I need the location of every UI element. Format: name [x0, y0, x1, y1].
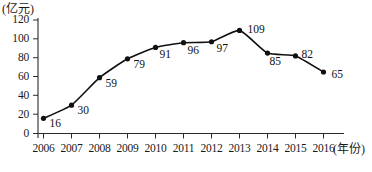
data-point	[97, 75, 102, 80]
data-point-label: 97	[217, 43, 229, 55]
y-axis-tick-label: 100	[3, 33, 29, 45]
x-axis-tick-label: 2016	[307, 143, 341, 155]
data-point-label: 59	[106, 78, 118, 90]
data-point-label: 65	[332, 69, 344, 81]
data-point	[41, 116, 46, 121]
data-point	[293, 53, 298, 58]
y-axis-tick-label: 120	[3, 14, 29, 26]
data-point-label: 82	[302, 49, 314, 61]
y-axis-tick-label: 40	[3, 90, 29, 102]
data-point-label: 79	[134, 59, 146, 71]
y-axis-ticks	[33, 20, 38, 114]
data-point	[125, 56, 130, 61]
y-axis-tick-label: 80	[3, 52, 29, 64]
line-chart: (亿元) (年份)	[0, 0, 372, 172]
data-point	[209, 39, 214, 44]
x-axis-ticks	[44, 134, 324, 139]
data-point	[69, 103, 74, 108]
y-axis-tick-label: 0	[3, 128, 29, 140]
data-point-label: 85	[270, 56, 282, 68]
y-axis-tick-label: 60	[3, 71, 29, 83]
data-point-label: 30	[78, 105, 90, 117]
data-point-label: 16	[50, 118, 62, 130]
data-point-label: 109	[248, 24, 265, 36]
data-point	[181, 40, 186, 45]
data-point	[153, 45, 158, 50]
data-point	[237, 28, 242, 33]
data-point-label: 91	[160, 49, 172, 61]
data-point-label: 96	[188, 45, 200, 57]
data-point	[321, 69, 326, 74]
y-axis-tick-label: 20	[3, 109, 29, 121]
axes-group	[33, 18, 344, 139]
